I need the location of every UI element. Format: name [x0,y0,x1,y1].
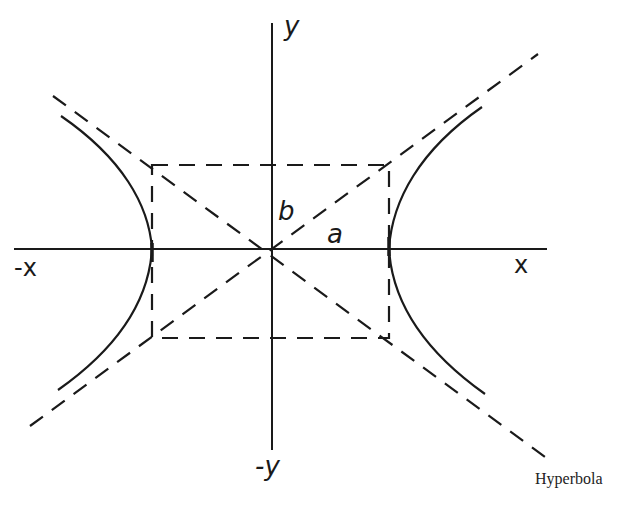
figure-caption: Hyperbola [535,470,603,488]
hyperbola-branch-left [58,116,152,390]
label-x: x [514,251,528,279]
label-a: a [327,219,343,249]
label-neg-y: -y [255,451,280,481]
hyperbola-diagram: y -y x -x b a [0,0,635,505]
label-y: y [283,11,300,41]
label-b: b [278,196,295,226]
asymptote-negative-slope [53,96,552,462]
label-neg-x: -x [14,254,37,282]
fundamental-rectangle [152,165,389,338]
asymptote-positive-slope [30,54,538,426]
hyperbola-branch-right [389,107,485,394]
